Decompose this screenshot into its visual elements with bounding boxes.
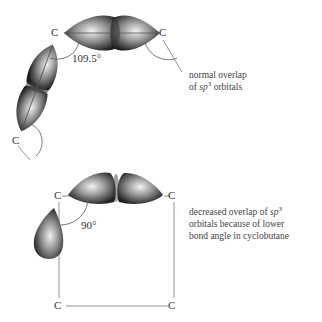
slanted-bond-orbital <box>8 40 65 136</box>
atom-c-ring-top-right: C <box>168 190 175 201</box>
atom-c-top-left: C <box>51 27 58 38</box>
angle-label-109: 109.5° <box>72 53 101 64</box>
caption-text: of <box>189 82 199 92</box>
caption-text: orbitals <box>211 82 242 92</box>
caption-sp: sp <box>199 82 207 92</box>
caption-line: decreased overlap of sp3 <box>189 206 289 218</box>
caption-sup: 3 <box>278 205 282 213</box>
caption-text: decreased overlap of <box>189 207 270 217</box>
angle-label-90: 90° <box>81 220 96 231</box>
caption-normal-overlap: normal overlap of sp3 orbitals <box>189 69 247 93</box>
caption-line: of sp3 orbitals <box>189 81 247 93</box>
atom-c-top-right: C <box>159 27 166 38</box>
atom-c-ring-bottom-left: C <box>54 300 61 311</box>
atom-c-ring-top-left: C <box>54 190 61 201</box>
caption-line: normal overlap <box>189 69 247 81</box>
orbital-diagram <box>0 0 322 322</box>
caption-line: bond angle in cyclobutane <box>189 230 289 242</box>
normal-overlap-panel <box>8 15 182 160</box>
atom-c-ring-bottom-right: C <box>168 300 175 311</box>
bent-bond-orbital <box>68 172 163 203</box>
atom-c-lower-left: C <box>12 135 19 146</box>
caption-decreased-overlap: decreased overlap of sp3 orbitals becaus… <box>189 206 289 242</box>
caption-line: orbitals because of lower <box>189 218 289 230</box>
